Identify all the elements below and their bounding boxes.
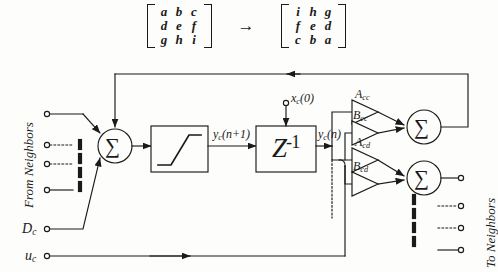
from-neighbors-terminals[interactable] bbox=[44, 111, 49, 192]
yc-next-label: yc(n+1) bbox=[213, 128, 250, 142]
delay-block-label: Z-1 bbox=[272, 133, 299, 162]
to-neighbors-label: To Neighbors bbox=[484, 198, 497, 268]
uc-label: uc bbox=[25, 249, 36, 265]
gain-label-acd: Acd bbox=[355, 136, 370, 150]
initial-condition-label: xc(0) bbox=[291, 92, 314, 106]
gain-label-bcd: Bcd bbox=[353, 160, 368, 174]
bcc-to-sum bbox=[378, 128, 404, 133]
feedback-sum-symbol: ∑ bbox=[414, 117, 429, 138]
input-sum-symbol: ∑ bbox=[105, 136, 120, 157]
to-neighbors-terminals[interactable] bbox=[458, 175, 463, 252]
bcd-to-sum bbox=[378, 180, 404, 184]
dc-label: Dc bbox=[22, 222, 36, 238]
acd-to-sum bbox=[378, 160, 404, 176]
output-sum-symbol: ∑ bbox=[414, 168, 429, 189]
acc-to-sum bbox=[378, 112, 404, 125]
uc-bus-to-bcc bbox=[345, 133, 352, 160]
saturation-nonlinearity-block bbox=[151, 126, 208, 172]
gain-label-bcc: Bcc bbox=[353, 109, 368, 123]
gain-label-acc: Acc bbox=[355, 88, 370, 102]
dc-terminal[interactable] bbox=[44, 226, 49, 231]
initial-condition-terminal[interactable] bbox=[283, 100, 288, 105]
gain-triangle-bcd bbox=[352, 172, 378, 196]
wire-hop-icon bbox=[339, 160, 345, 166]
uc-bus-to-bcd bbox=[345, 166, 352, 184]
dc-bundle-lower bbox=[50, 158, 100, 229]
yc-now-label: yc(n) bbox=[318, 128, 341, 142]
yc-bus-to-acd bbox=[332, 146, 352, 160]
input-bundle-upper bbox=[83, 114, 100, 133]
uc-terminal[interactable] bbox=[44, 253, 49, 258]
from-neighbors-label: From Neighbors bbox=[22, 122, 35, 208]
